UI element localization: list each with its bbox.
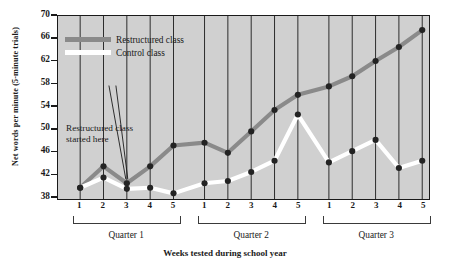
data-point-restructured	[225, 150, 231, 156]
legend-swatch-restructured-icon	[65, 37, 111, 42]
data-point-control	[326, 159, 332, 165]
x-tick-label: 1	[196, 200, 212, 210]
x-tick-label: 5	[165, 200, 181, 210]
data-point-restructured	[295, 92, 301, 98]
legend-item-control: Control class	[65, 46, 184, 59]
data-point-restructured	[271, 107, 277, 113]
x-axis-title: Weeks tested during school year	[0, 248, 450, 258]
y-tick-label: 54	[20, 100, 50, 110]
chart-figure: Net words per minute (5-minute trials) 3…	[0, 0, 450, 272]
data-point-control	[77, 185, 83, 191]
data-point-control	[372, 137, 378, 143]
legend-item-restructured: Restructured class	[65, 33, 184, 46]
quarter-label: Quarter 3	[323, 230, 429, 240]
quarter-label: Quarter 2	[198, 230, 304, 240]
x-tick-label: 2	[95, 200, 111, 210]
annotation-line-1: Restructured class	[66, 123, 171, 134]
x-tick-label: 3	[368, 200, 384, 210]
data-point-restructured	[100, 163, 106, 169]
y-tick-label: 46	[20, 145, 50, 155]
annotation-line-2: started here	[66, 134, 171, 145]
x-tick-label: 1	[321, 200, 337, 210]
legend-swatch-control-icon	[65, 50, 111, 55]
data-point-control	[271, 158, 277, 164]
data-point-control	[100, 175, 106, 181]
x-tick-label: 2	[345, 200, 361, 210]
quarter-label: Quarter 1	[73, 230, 179, 240]
x-tick-label: 3	[243, 200, 259, 210]
data-point-restructured	[124, 180, 130, 186]
data-point-control	[396, 165, 402, 171]
x-tick-label: 3	[118, 200, 134, 210]
data-point-control	[248, 169, 254, 175]
data-point-control	[201, 180, 207, 186]
data-point-control	[147, 185, 153, 191]
legend-label-control: Control class	[116, 48, 165, 58]
x-tick-label: 4	[142, 200, 158, 210]
x-tick-label: 4	[392, 200, 408, 210]
data-point-control	[295, 111, 301, 117]
data-point-restructured	[248, 128, 254, 134]
x-tick-label: 1	[71, 200, 87, 210]
y-tick-label: 58	[20, 77, 50, 87]
data-point-restructured	[170, 142, 176, 148]
data-point-restructured	[372, 58, 378, 64]
chart-legend: Restructured class Control class	[65, 33, 184, 59]
data-point-restructured	[349, 73, 355, 79]
data-point-restructured	[326, 83, 332, 89]
data-point-control	[349, 148, 355, 154]
x-tick-label: 2	[220, 200, 236, 210]
y-axis-title: Net words per minute (5-minute trials)	[11, 2, 20, 192]
x-tick-label: 5	[290, 200, 306, 210]
y-tick-label: 62	[20, 54, 50, 64]
data-point-restructured	[396, 44, 402, 50]
quarter-bracket	[73, 216, 181, 224]
y-tick-label: 38	[20, 191, 50, 201]
quarter-bracket	[323, 216, 431, 224]
y-tick-label: 50	[20, 122, 50, 132]
x-tick-label: 5	[415, 200, 431, 210]
data-point-restructured	[147, 163, 153, 169]
data-point-restructured	[419, 27, 425, 33]
data-point-control	[170, 190, 176, 196]
x-tick-label: 4	[267, 200, 283, 210]
legend-label-restructured: Restructured class	[116, 35, 184, 45]
data-point-restructured	[201, 140, 207, 146]
data-point-control	[419, 158, 425, 164]
y-tick-label: 66	[20, 31, 50, 41]
data-point-control	[124, 186, 130, 192]
annotation-restructured-start: Restructured class started here	[66, 123, 171, 144]
quarter-bracket	[198, 216, 306, 224]
y-tick-label: 42	[20, 168, 50, 178]
y-tick-label: 70	[20, 9, 50, 19]
data-point-control	[225, 178, 231, 184]
